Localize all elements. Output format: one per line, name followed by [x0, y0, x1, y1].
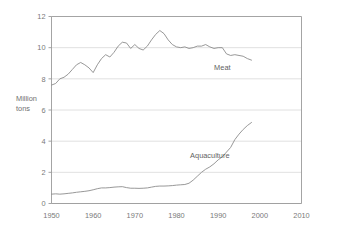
- x-tick-label: 2000: [252, 211, 268, 220]
- y-axis-title-line1: Million: [16, 94, 37, 103]
- x-tick-label: 2010: [293, 211, 309, 220]
- chart-background: [0, 0, 349, 234]
- y-tick-label: 2: [41, 168, 45, 177]
- x-tick-label: 1980: [168, 211, 184, 220]
- series-label-meat: Meat: [214, 63, 230, 72]
- y-axis-title-line2: tons: [16, 104, 30, 113]
- chart-container: 024681012 1950196019701980199020002010 M…: [0, 0, 349, 234]
- y-tick-label: 10: [37, 43, 45, 52]
- x-tick-label: 1990: [210, 211, 226, 220]
- x-tick-label: 1960: [85, 211, 101, 220]
- line-chart: 024681012 1950196019701980199020002010 M…: [0, 0, 349, 234]
- y-tick-label: 4: [41, 137, 45, 146]
- y-tick-label: 6: [41, 106, 45, 115]
- x-tick-label: 1970: [127, 211, 143, 220]
- y-tick-label: 12: [37, 12, 45, 21]
- x-tick-label: 1950: [43, 211, 59, 220]
- y-tick-label: 0: [41, 199, 45, 208]
- y-tick-label: 8: [41, 75, 45, 84]
- series-label-aquaculture: Aquaculture: [190, 151, 229, 160]
